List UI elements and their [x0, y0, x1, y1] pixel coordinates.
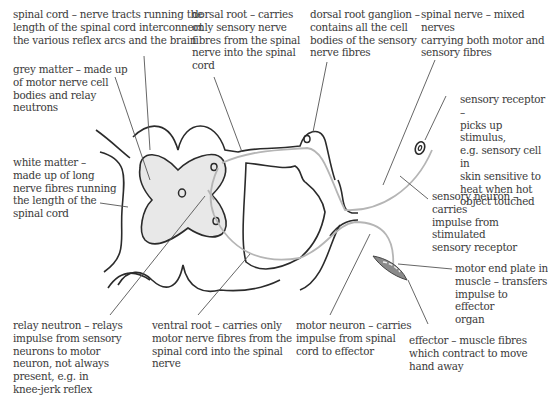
- label-motor-end-plate: motor end plate in muscle – transfers im…: [455, 262, 548, 326]
- sensory-receptor-shape: [414, 140, 427, 155]
- label-spinal-cord: spinal cord – nerve tracts running the l…: [13, 8, 203, 46]
- label-effector: effector – muscle fibres which contract …: [409, 334, 528, 372]
- label-dorsal-root: dorsal root – carries only sensory nerve…: [192, 8, 300, 72]
- label-sensory-neuron: sensory neuron – carries impulse from st…: [432, 190, 548, 254]
- effector-muscle-shape: [373, 256, 407, 280]
- label-white-matter: white matter – made up of long nerve fib…: [13, 156, 116, 220]
- label-grey-matter: grey matter – made up of motor nerve cel…: [13, 63, 128, 114]
- label-ventral-root: ventral root – carries only motor nerve …: [152, 319, 292, 370]
- label-relay-neutron: relay neutron – relays impulse from sens…: [13, 319, 123, 396]
- label-motor-neuron: motor neuron – carries impulse from spin…: [296, 319, 411, 357]
- neuron-paths: [208, 148, 432, 268]
- label-spinal-nerve: spinal nerve – mixed nerves carrying bot…: [421, 8, 548, 59]
- spinal-cord-outline: [96, 126, 358, 291]
- dorsal-root-ganglion-body: [304, 136, 310, 143]
- label-dorsal-root-ganglion: dorsal root ganglion – contains all the …: [310, 8, 420, 59]
